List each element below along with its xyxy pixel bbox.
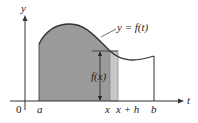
tick-label-a: a [37,103,43,115]
tick-label-b: b [151,103,157,115]
tick-label-x-plus-h: x + h [115,103,140,115]
tick-label-x: x [104,103,110,115]
strip-rectangle [110,51,118,101]
y-axis-label: y [20,2,26,14]
x-axis-label: t [187,94,191,106]
shaded-area [39,24,110,101]
origin-label: 0 [16,103,22,115]
height-label: f(x) [91,70,107,83]
curve-label: y = f(t) [116,21,149,34]
y-axis-arrow-icon [23,15,28,21]
x-axis-arrow-icon [178,99,184,104]
curve-label-leader [101,29,116,37]
calculus-diagram: y t 0 a x x + h b y = f(t) f(x) [0,0,198,123]
